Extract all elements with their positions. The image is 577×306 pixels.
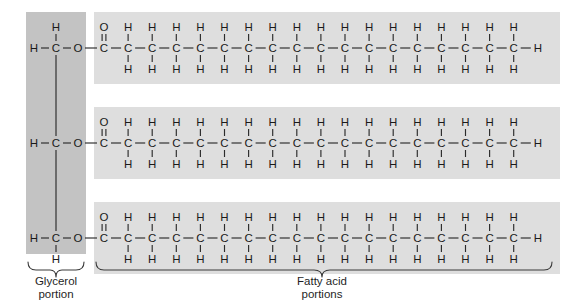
fattyacid-3-h-top-8: H — [269, 211, 277, 223]
fattyacid-3-h-top-12: H — [365, 211, 373, 223]
fattyacid-2-carbon-2: C — [124, 137, 132, 149]
fattyacid-1-h-bottom-8: H — [269, 63, 277, 75]
fattyacid-2-h-top-4: H — [172, 116, 180, 128]
fattyacid-2-h-top-12: H — [365, 116, 373, 128]
fattyacid-2-h-top-7: H — [244, 116, 252, 128]
fattyacid-2-h-top-16: H — [461, 116, 469, 128]
fattyacid-2-h-bottom-8: H — [269, 158, 277, 170]
fattyacid-3-h-bottom-14: H — [413, 253, 421, 265]
fattyacid-3-h-top-16: H — [461, 211, 469, 223]
fattyacid-1-carbon-9: C — [293, 42, 301, 54]
fattyacid-1-h-top-4: H — [172, 21, 180, 33]
fattyacid-2-carbon-14: C — [413, 137, 421, 149]
fattyacid-1-h-top-9: H — [293, 21, 301, 33]
fattyacid-1-carbon-14: C — [413, 42, 421, 54]
fattyacid-3-carbon-5: C — [196, 232, 204, 244]
fattyacid-1-h-top-13: H — [389, 21, 397, 33]
fattyacid-2-h-bottom-5: H — [196, 158, 204, 170]
fattyacid-1-h-top-3: H — [148, 21, 156, 33]
fattyacid-1-h-bottom-12: H — [365, 63, 373, 75]
fattyacid-3-h-top-11: H — [341, 211, 349, 223]
glycerol-hydrogen-bottom-3: H — [52, 253, 60, 265]
fattyacid-2-carbon-7: C — [244, 137, 252, 149]
fattyacid-1-h-top-7: H — [244, 21, 252, 33]
fattyacid-2-h-bottom-6: H — [220, 158, 228, 170]
fattyacid-3-h-top-3: H — [148, 211, 156, 223]
fattyacid-1-carbon-4: C — [172, 42, 180, 54]
fattyacid-3-h-bottom-17: H — [485, 253, 493, 265]
fattyacid-2-h-top-13: H — [389, 116, 397, 128]
fattyacid-2-carbon-5: C — [196, 137, 204, 149]
fattyacid-1-h-bottom-2: H — [124, 63, 132, 75]
fattyacid-1-h-bottom-14: H — [413, 63, 421, 75]
fattyacid-1-h-bottom-5: H — [196, 63, 204, 75]
fattyacid-3-carbon-9: C — [293, 232, 301, 244]
glycerol-hydrogen-left-1: H — [30, 42, 38, 54]
fattyacid-3-carbon-8: C — [269, 232, 277, 244]
fattyacid-3-carbon-7: C — [244, 232, 252, 244]
fattyacid-3-h-bottom-11: H — [341, 253, 349, 265]
fattyacid-1-h-top-11: H — [341, 21, 349, 33]
fattyacid-1-h-top-10: H — [317, 21, 325, 33]
fattyacid-2-h-bottom-2: H — [124, 158, 132, 170]
fattyacid-3-carbon-10: C — [317, 232, 325, 244]
fattyacid-2-h-bottom-17: H — [485, 158, 493, 170]
fattyacid-1-h-top-18: H — [510, 21, 518, 33]
fattyacid-2-carbon-16: C — [461, 137, 469, 149]
fattyacid-3-h-bottom-5: H — [196, 253, 204, 265]
fattyacid-2-h-bottom-7: H — [244, 158, 252, 170]
fattyacid-2-carbon-15: C — [437, 137, 445, 149]
fattyacid-3-carbon-17: C — [485, 232, 493, 244]
fattyacid-2-h-top-11: H — [341, 116, 349, 128]
fattyacid-1-carbon-3: C — [148, 42, 156, 54]
fattyacid-3-h-bottom-13: H — [389, 253, 397, 265]
fattyacid-3-carbonyl-oxygen: O — [100, 211, 109, 223]
fattyacid-3-h-bottom-12: H — [365, 253, 373, 265]
fattyacid-2-h-bottom-15: H — [437, 158, 445, 170]
glycerol-carbon-3: C — [52, 232, 60, 244]
fattyacid-3-carbon-1: C — [100, 232, 108, 244]
glycerol-carbon-1: C — [52, 42, 60, 54]
fattyacid-1-terminal-hydrogen: H — [534, 42, 542, 54]
fattyacid-1-carbon-17: C — [485, 42, 493, 54]
fattyacid-2-carbon-8: C — [269, 137, 277, 149]
fattyacid-1-carbon-18: C — [510, 42, 518, 54]
fattyacid-1-h-bottom-13: H — [389, 63, 397, 75]
fattyacid-3-carbon-4: C — [172, 232, 180, 244]
fattyacid-3-h-top-15: H — [437, 211, 445, 223]
fattyacid-3-h-bottom-4: H — [172, 253, 180, 265]
glycerol-hydrogen-left-2: H — [30, 137, 38, 149]
fattyacid-3-h-top-6: H — [220, 211, 228, 223]
fattyacid-3-carbon-16: C — [461, 232, 469, 244]
fattyacid-3-h-top-2: H — [124, 211, 132, 223]
fattyacid-3-h-bottom-9: H — [293, 253, 301, 265]
fattyacid-3-h-bottom-16: H — [461, 253, 469, 265]
fattyacid-2-h-top-17: H — [485, 116, 493, 128]
fattyacid-2-carbon-6: C — [220, 137, 228, 149]
fattyacid-3-h-bottom-3: H — [148, 253, 156, 265]
fattyacid-3-h-top-7: H — [244, 211, 252, 223]
fattyacid-2-h-bottom-13: H — [389, 158, 397, 170]
fattyacid-2-h-top-9: H — [293, 116, 301, 128]
fattyacid-1-carbon-12: C — [365, 42, 373, 54]
fattyacid-2-carbon-3: C — [148, 137, 156, 149]
fattyacid-3-carbon-15: C — [437, 232, 445, 244]
fattyacid-1-carbon-10: C — [317, 42, 325, 54]
glycerol-hydrogen-top-1: H — [52, 21, 60, 33]
fattyacid-3-h-bottom-2: H — [124, 253, 132, 265]
glycerol-carbon-2: C — [52, 137, 60, 149]
fattyacid-3-h-bottom-10: H — [317, 253, 325, 265]
fatty-acid-caption-line2: portions — [302, 288, 343, 300]
fattyacid-2-h-top-18: H — [510, 116, 518, 128]
fattyacid-3-h-top-4: H — [172, 211, 180, 223]
fattyacid-1-h-top-8: H — [269, 21, 277, 33]
glycerol-caption-line1: Glycerol — [35, 275, 77, 287]
fattyacid-2-h-top-10: H — [317, 116, 325, 128]
glycerol-ester-oxygen-1: O — [74, 42, 83, 54]
fattyacid-2-h-top-6: H — [220, 116, 228, 128]
fattyacid-3-h-top-5: H — [196, 211, 204, 223]
fattyacid-3-carbon-14: C — [413, 232, 421, 244]
glycerol-hydrogen-left-3: H — [30, 232, 38, 244]
fattyacid-1-h-bottom-10: H — [317, 63, 325, 75]
fattyacid-1-h-bottom-16: H — [461, 63, 469, 75]
